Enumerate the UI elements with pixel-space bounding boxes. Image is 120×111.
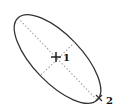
center-label: 1	[63, 52, 70, 63]
ellipse-outline	[1, 1, 115, 111]
endpoint-x-icon	[96, 95, 102, 101]
ellipse-group	[1, 1, 115, 111]
ellipse-diagram: 1 2	[0, 0, 120, 111]
endpoint-label: 2	[106, 95, 113, 106]
major-axis-line	[18, 18, 97, 100]
